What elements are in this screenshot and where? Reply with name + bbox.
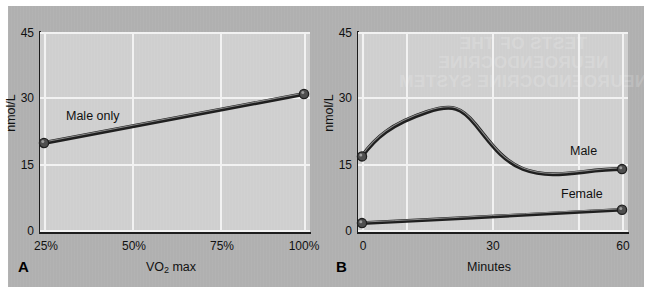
figure-root: Male only 45 30 15 0 25% 50% 75% 100% VO… xyxy=(0,0,652,294)
panel-b-series-female xyxy=(357,205,626,228)
panel-a-xtick-25: 25% xyxy=(34,240,58,252)
panel-a-xtick-50: 50% xyxy=(122,240,146,252)
figure-card: Male only 45 30 15 0 25% 50% 75% 100% VO… xyxy=(8,6,644,287)
panel-a-y-axis-title: nmol/L xyxy=(4,94,18,132)
panel-a-letter: A xyxy=(18,258,29,275)
panel-a-x-axis-title-subscript: 2 xyxy=(164,265,169,275)
panel-a-ytick-45: 45 xyxy=(8,27,34,39)
panel-a-annotation-male-only: Male only xyxy=(66,109,120,123)
panel-a-xtick-75: 75% xyxy=(210,240,234,252)
panel-b-ytick-45: 45 xyxy=(326,27,352,39)
panel-a-x-axis-title: VO2 max xyxy=(8,260,334,274)
panel-b-x-axis xyxy=(357,232,629,234)
panel-b-xtick-0: 0 xyxy=(360,240,367,252)
panel-a-x-axis-title-prefix: VO xyxy=(146,260,164,274)
panel-b-letter: B xyxy=(336,258,347,275)
panel-a-ytick-15: 15 xyxy=(8,159,34,171)
panel-b-plot-area: TESTS OF THE NEUROENDOCRINE NEUROENDOCRI… xyxy=(358,32,628,232)
panel-a-x-axis xyxy=(39,232,311,234)
panel-a-plot-area: Male only xyxy=(40,32,310,232)
panel-a-xtick-100: 100% xyxy=(289,240,320,252)
panel-b-series-male xyxy=(357,107,626,175)
panel-b-y-axis-title: nmol/L xyxy=(322,94,336,132)
panel-a-series-male-only xyxy=(40,32,310,232)
panel-b-label-male: Male xyxy=(570,144,597,158)
panel-b-xtick-30: 30 xyxy=(486,240,499,252)
panel-b-x-axis-title: Minutes xyxy=(326,260,652,274)
panel-b: TESTS OF THE NEUROENDOCRINE NEUROENDOCRI… xyxy=(326,6,652,287)
panel-b-xtick-60: 60 xyxy=(616,240,629,252)
panel-b-series-group xyxy=(358,32,628,232)
panel-a: Male only 45 30 15 0 25% 50% 75% 100% VO… xyxy=(8,6,334,287)
panel-b-label-female: Female xyxy=(561,187,603,201)
panel-b-ytick-0: 0 xyxy=(326,225,352,237)
panel-a-x-axis-title-suffix: max xyxy=(169,260,196,274)
panel-a-ytick-0: 0 xyxy=(8,225,34,237)
panel-b-ytick-15: 15 xyxy=(326,159,352,171)
